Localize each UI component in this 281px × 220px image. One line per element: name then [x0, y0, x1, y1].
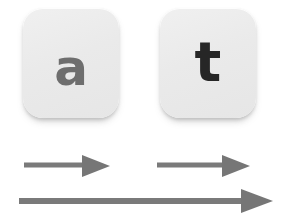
- keycap-t-label: t: [195, 34, 222, 90]
- diagram-canvas: a t: [0, 0, 281, 220]
- arrow-right-short-right: [157, 152, 250, 180]
- arrow-right-icon: [19, 186, 273, 216]
- keycap-a-label: a: [54, 43, 88, 93]
- keycap-t[interactable]: t: [160, 8, 256, 118]
- keycap-a[interactable]: a: [23, 8, 119, 118]
- arrow-right-icon: [157, 152, 250, 180]
- arrow-right-icon: [24, 152, 110, 180]
- arrow-right-long: [19, 186, 273, 216]
- arrow-right-short-left: [24, 152, 110, 180]
